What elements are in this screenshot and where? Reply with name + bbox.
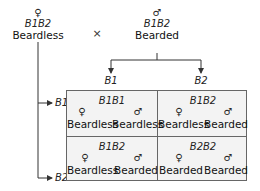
female-symbol-icon: ♀	[174, 153, 184, 163]
female-genotype: B1B2	[18, 19, 58, 29]
female-symbol-icon: ♀	[174, 107, 184, 117]
male-gamete-b2: B2	[191, 76, 211, 86]
male-genotype: B1B2	[137, 19, 177, 29]
male-gamete-b1: B1	[101, 76, 121, 86]
male-phenotype: Beardless	[112, 119, 156, 130]
female-phenotype: Beardless	[8, 30, 68, 41]
female-phenotype: Bearded	[159, 165, 201, 176]
female-phenotype: Beardless	[67, 165, 111, 176]
cell-genotype: B1B1	[92, 96, 132, 106]
male-phenotype: Bearded	[127, 30, 187, 41]
punnett-cell-b1b2-bottom: B1B2 ♀ ♂ Beardless Bearded	[67, 137, 157, 181]
male-phenotype: Bearded	[204, 165, 246, 176]
male-symbol-icon: ♂	[152, 8, 162, 18]
cell-genotype: B1B2	[92, 142, 132, 152]
punnett-cell-b1b1: B1B1 ♀ ♂ Beardless Beardless	[67, 91, 157, 136]
female-symbol-icon: ♀	[33, 8, 43, 18]
punnett-square: B1B1 ♀ ♂ Beardless Beardless B1B2 ♀ ♂ Be…	[66, 90, 247, 181]
cell-genotype: B2B2	[183, 142, 223, 152]
male-phenotype: Bearded	[114, 165, 156, 176]
male-phenotype: Bearded	[204, 119, 246, 130]
male-symbol-icon: ♂	[223, 153, 233, 163]
cross-operator: ×	[92, 28, 102, 39]
female-phenotype: Beardless	[158, 119, 202, 130]
punnett-cell-b2b2: B2B2 ♀ ♂ Bearded Bearded	[158, 137, 247, 181]
punnett-cell-b1b2-top: B1B2 ♀ ♂ Beardless Bearded	[158, 91, 247, 136]
female-symbol-icon: ♀	[80, 153, 90, 163]
male-symbol-icon: ♂	[223, 107, 233, 117]
male-symbol-icon: ♂	[133, 107, 143, 117]
female-phenotype: Beardless	[67, 119, 111, 130]
cell-genotype: B1B2	[183, 96, 223, 106]
female-symbol-icon: ♀	[77, 107, 87, 117]
male-symbol-icon: ♂	[133, 153, 143, 163]
